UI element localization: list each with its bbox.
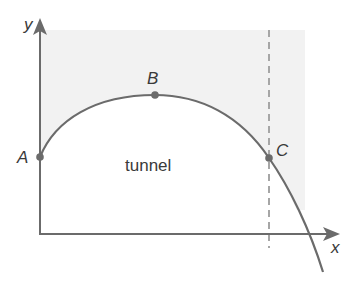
shaded-region: [40, 30, 305, 210]
x-axis-label: x: [330, 238, 340, 257]
tunnel-label: tunnel: [125, 156, 171, 175]
tunnel-diagram: y x A B C tunnel: [0, 0, 357, 282]
point-b: [151, 91, 159, 99]
point-c: [265, 154, 273, 162]
point-b-label: B: [147, 69, 158, 88]
point-a: [36, 153, 44, 161]
point-a-label: A: [16, 148, 28, 167]
y-axis-label: y: [23, 15, 34, 34]
point-c-label: C: [276, 141, 289, 160]
